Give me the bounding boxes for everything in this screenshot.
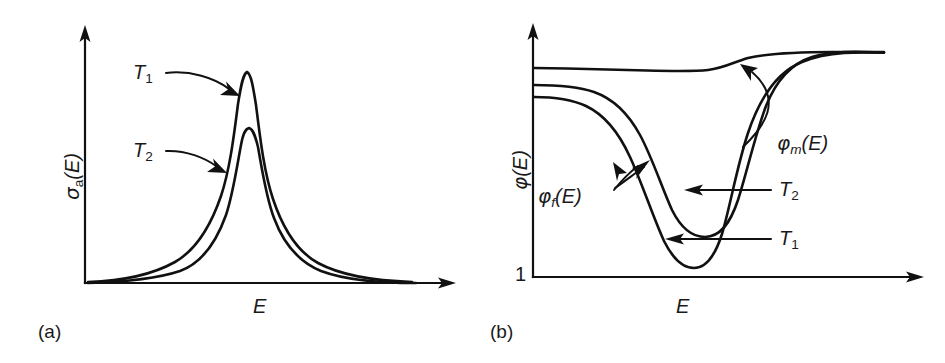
phi-m-argument: (E) <box>802 132 829 154</box>
panel-a-label-T1-text: T <box>133 61 145 83</box>
panel-a-label-T1: T1 <box>133 62 153 85</box>
panel-b-label-T2: T2 <box>779 179 799 202</box>
phi-m-subscript: m <box>790 142 801 157</box>
panel-b-label-phi-f: φf(E) <box>538 186 582 209</box>
panel-a-label-T2: T2 <box>133 140 153 163</box>
panel-b-phi-f-leader <box>613 160 650 190</box>
panel-b-x-axis <box>533 272 924 283</box>
panel-b-label-T1-subscript: 1 <box>791 237 799 252</box>
panel-b-y-axis-label: φ(E) <box>510 150 530 190</box>
panel-a-tag-text: (a) <box>38 321 61 342</box>
phi-argument: (E) <box>509 150 531 177</box>
phi-f-argument: (E) <box>555 185 582 207</box>
panel-a-label-T1-subscript: 1 <box>145 71 153 86</box>
phi-symbol: φ <box>508 177 532 190</box>
phi-m-symbol: φ <box>777 131 790 155</box>
panel-b-phi-m-leader <box>740 64 769 147</box>
panel-b-label-T1: T1 <box>779 228 799 251</box>
panel-b-label-T1-text: T <box>779 227 791 249</box>
panel-a-label-T2-text: T <box>133 139 145 161</box>
sigma-symbol: σ <box>60 187 84 200</box>
figure-container: σa(E) E T1 T2 (a) <box>0 0 945 363</box>
panel-b-y-tick-1: 1 <box>515 264 526 284</box>
panel-b-x-axis-label-text: E <box>676 295 689 317</box>
panel-a: σa(E) E T1 T2 (a) <box>0 0 472 363</box>
curve-phi-f-T2 <box>534 52 884 237</box>
panel-a-x-axis-label-text: E <box>253 295 266 317</box>
panel-a-tag: (a) <box>38 322 61 341</box>
panel-b-T2-leader <box>684 185 771 196</box>
panel-b-label-T2-text: T <box>779 178 791 200</box>
panel-b-label-T2-subscript: 2 <box>791 188 799 203</box>
panel-a-y-axis-label: σa(E) <box>62 153 85 200</box>
panel-b-tag-text: (b) <box>490 321 513 342</box>
panel-b: φ(E) 1 E φm(E) φf(E) T2 T1 (b) <box>472 0 945 363</box>
panel-b-y-tick-1-text: 1 <box>515 263 526 285</box>
panel-a-T2-leader <box>166 151 227 173</box>
panel-b-x-axis-label: E <box>676 296 689 316</box>
panel-a-T1-leader <box>166 72 240 96</box>
panel-b-label-phi-m: φm(E) <box>777 133 828 156</box>
curve-sigma-T1 <box>88 72 412 282</box>
panel-b-plot <box>472 0 945 363</box>
panel-a-x-axis-label: E <box>253 296 266 316</box>
sigma-argument: (E) <box>61 153 83 180</box>
panel-b-tag: (b) <box>490 322 513 341</box>
phi-f-symbol: φ <box>538 184 551 208</box>
panel-a-label-T2-subscript: 2 <box>145 149 153 164</box>
sigma-subscript: a <box>71 180 86 188</box>
